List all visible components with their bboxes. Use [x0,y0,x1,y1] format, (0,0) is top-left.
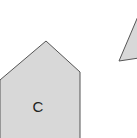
triangle-shape [119,14,137,61]
shape-label-c: C [33,98,44,115]
diagram-canvas: C [0,0,137,138]
pentagon-shape-c [0,41,80,138]
